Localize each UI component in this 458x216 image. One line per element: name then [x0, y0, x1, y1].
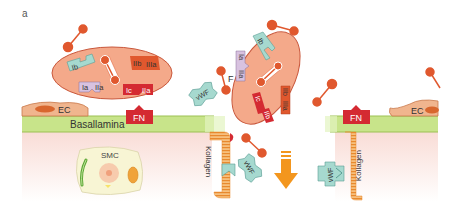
svg-text:SMC: SMC [101, 151, 119, 160]
subendothelium-right [335, 132, 438, 202]
endothelial-cell-left: EC [22, 102, 88, 116]
svg-text:IIa: IIa [237, 70, 246, 79]
svg-text:IIa: IIa [95, 83, 104, 92]
flow-arrow [274, 151, 298, 189]
svg-text:IIa: IIa [142, 86, 151, 95]
svg-text:IIIa: IIIa [282, 101, 289, 111]
svg-text:Ia: Ia [82, 83, 89, 92]
smooth-muscle-cell: SMC [76, 147, 142, 195]
svg-text:vWF: vWF [327, 168, 334, 182]
svg-text:EC: EC [411, 106, 424, 116]
svg-text:Kollagen: Kollagen [204, 146, 213, 177]
endothelial-cell-right: EC [389, 100, 439, 116]
svg-text:Ia: Ia [237, 54, 246, 61]
fn-right: FN [343, 105, 370, 124]
svg-text:FN: FN [133, 113, 145, 123]
svg-text:IIb: IIb [282, 88, 289, 96]
platelet-left: Ib Ia IIa Ic IIa IIb IIIa [52, 47, 172, 99]
svg-text:IIIa: IIIa [146, 60, 157, 69]
basallamina-label: Basallamina [70, 119, 125, 130]
fn-left: FN [126, 105, 153, 124]
platelet-adhesion-diagram: Basallamina EC EC FN FN SMC Kollagen [0, 0, 458, 216]
svg-text:FN: FN [350, 113, 362, 123]
svg-text:Kollagen: Kollagen [354, 150, 363, 181]
fibrinogen-label: F [228, 74, 234, 84]
svg-text:Ic: Ic [126, 86, 132, 95]
basallamina-right [325, 116, 438, 132]
vwf-free-1: vWF [187, 80, 219, 109]
svg-text:IIb: IIb [133, 59, 141, 68]
svg-text:EC: EC [58, 105, 71, 115]
